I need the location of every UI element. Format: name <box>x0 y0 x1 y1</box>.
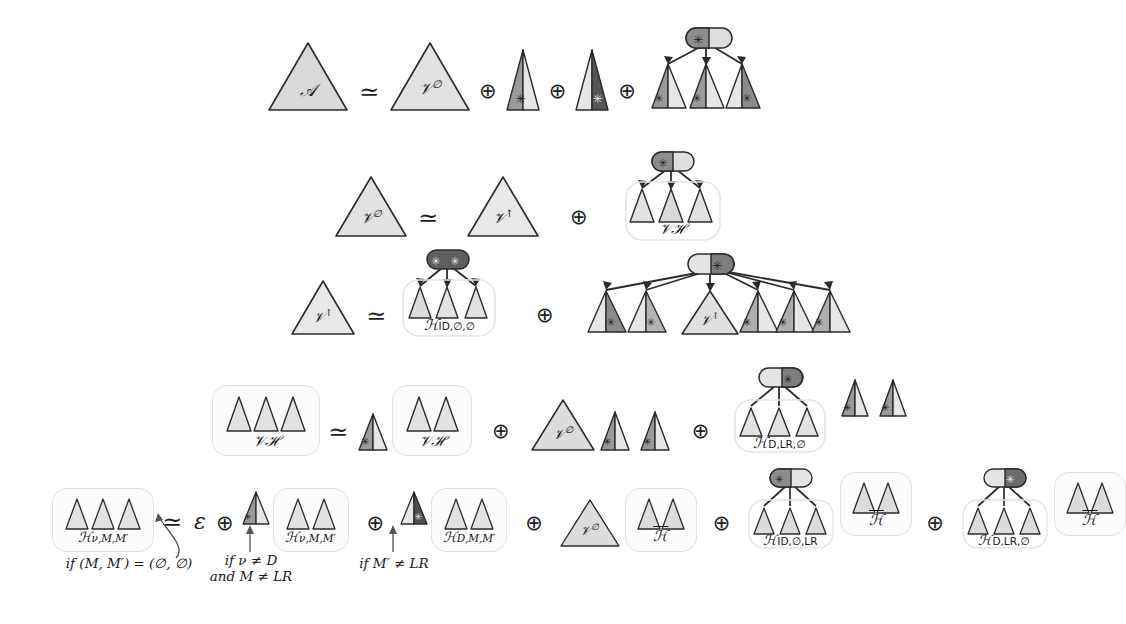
svg-text:✳: ✳ <box>775 473 784 485</box>
tree-H-ID-empty-empty: ✳ ✳ ℋID,∅,∅ <box>394 248 504 340</box>
svg-text:✳: ✳ <box>814 316 823 329</box>
star-glyph: ✳ <box>515 92 525 106</box>
operator-oplus-5a: ⊕ <box>210 513 240 552</box>
svg-text:✳: ✳ <box>843 402 851 413</box>
triangle-V-empty-4: 𝒱∅ <box>528 396 598 456</box>
svg-text:✳: ✳ <box>415 511 423 522</box>
tree-H-D-LR-empty-5: ✳ ℋD,LR,∅ <box>956 466 1052 552</box>
tree-wide-V-up-label: 𝒱↑ <box>700 310 720 329</box>
group-Hbar-5b: ℋ <box>840 472 912 536</box>
operator-oplus-1b: ⊕ <box>543 81 573 116</box>
star-glyph: ✳ <box>693 33 703 47</box>
operator-oplus-5c: ⊕ <box>519 513 549 552</box>
relation-simeq-1: ≃ <box>351 80 387 116</box>
epsilon-term: ε <box>190 509 210 552</box>
triangle-V-empty-label-5: 𝒱∅ <box>580 522 599 539</box>
group-H-nu-lhs-label: ℋν,M,M′ <box>78 529 129 545</box>
condition-3: if M′ ≠ LR <box>334 556 454 572</box>
tree-H-ID-LR-label: ℋID,∅,LR <box>763 532 817 548</box>
triangle-star-left-1: ✳ <box>503 46 543 116</box>
group-Hbar-5a: ℋ <box>625 488 697 552</box>
operator-oplus-5e: ⊕ <box>920 513 950 552</box>
group-Hbar-label-c: ℋ <box>1082 511 1097 529</box>
svg-text:✳: ✳ <box>643 436 651 447</box>
triangle-A: 𝒜 <box>265 38 351 116</box>
group-H-nu-M-Mp-rhs: ℋν,M,M′ <box>273 488 349 552</box>
tree-H-ID-empty-LR: ✳ ℋID,∅,LR <box>742 466 838 552</box>
relation-simeq-3: ≃ <box>358 304 394 340</box>
relation-simeq-5: ≃ <box>154 510 190 552</box>
triangle-V-up-label-3: 𝒱↑ <box>313 307 333 326</box>
triangle-star-4c: ✳ <box>638 406 672 456</box>
svg-text:✳: ✳ <box>658 156 668 170</box>
group-VH-lhs-label: 𝒱ℋ <box>253 432 279 450</box>
tree-H-D-LR-label: ℋD,LR,∅ <box>753 434 805 452</box>
group-Hbar-label-b: ℋ <box>869 511 884 529</box>
svg-text:✳: ✳ <box>742 316 751 329</box>
svg-text:✳: ✳ <box>783 373 792 386</box>
svg-text:✳: ✳ <box>881 402 889 413</box>
operator-oplus-4b: ⊕ <box>686 421 716 456</box>
triangle-V-up-2: 𝒱↑ <box>464 172 542 242</box>
group-H-nu-rhs-label: ℋν,M,M′ <box>285 529 336 545</box>
group-Hbar-label-a: ℋ <box>653 527 668 545</box>
triangle-V-up-label: 𝒱↑ <box>493 208 513 227</box>
triangle-V-empty-label-2: 𝒱∅ <box>361 208 382 227</box>
triangle-V-empty-5: 𝒱∅ <box>557 496 623 552</box>
relation-simeq-4: ≃ <box>320 420 356 456</box>
svg-text:✳: ✳ <box>450 255 459 268</box>
tree-H-ID-label: ℋID,∅,∅ <box>424 316 475 334</box>
group-H-D-M-Mp: ℋD,M,M′ <box>431 488 507 552</box>
relation-simeq-2: ≃ <box>410 206 446 242</box>
svg-text:✳: ✳ <box>778 316 787 329</box>
triangle-star-5b: ✳ <box>398 488 430 530</box>
group-H-D-M-Mp-label: ℋD,M,M′ <box>443 529 496 545</box>
triangle-star-4b: ✳ <box>598 406 632 456</box>
tree-H-D-LR-label-5: ℋD,LR,∅ <box>978 532 1029 548</box>
svg-text:✳: ✳ <box>431 255 440 268</box>
triangle-V-empty-label: 𝒱∅ <box>419 78 442 98</box>
triangle-V-empty: 𝒱∅ <box>387 38 473 116</box>
tree-H-D-LR-empty: ✳ ℋD,LR,∅ <box>727 364 831 456</box>
svg-text:✳: ✳ <box>646 316 655 329</box>
equation-row-2: 𝒱∅ ≃ 𝒱↑ ⊕ ✳ 𝒱ℋ <box>332 148 728 242</box>
tree-VH-label: 𝒱ℋ <box>659 220 685 238</box>
svg-text:✳: ✳ <box>654 92 663 105</box>
svg-text:✳: ✳ <box>1006 473 1015 485</box>
equation-row-3: 𝒱↑ ≃ ✳ ✳ ℋID,∅,∅ ⊕ <box>288 248 842 340</box>
triangle-A-label: 𝒜 <box>300 80 316 100</box>
operator-oplus-1a: ⊕ <box>473 81 503 116</box>
triangle-star-4d: ✳ <box>839 376 871 422</box>
triangle-V-empty-label-4: 𝒱∅ <box>553 424 573 443</box>
svg-text:✳: ✳ <box>712 259 722 273</box>
operator-oplus-4a: ⊕ <box>486 421 516 456</box>
equation-row-5: ℋν,M,M′ ≃ ε ⊕ ✳ ℋν,M,M′ ⊕ ✳ ℋD,M,M′ <box>52 466 1126 552</box>
tree-wide-V-up: ✳ ✳ ✳ ✳ ✳ ✳ 𝒱↑ <box>582 248 842 340</box>
group-H-nu-M-Mp-lhs: ℋν,M,M′ <box>52 488 154 552</box>
triangle-star-row4: ✳ <box>356 410 390 456</box>
triangle-V-up-lhs-3: 𝒱↑ <box>288 276 358 340</box>
group-VH-lhs-4: 𝒱ℋ <box>212 385 320 456</box>
svg-text:✳: ✳ <box>742 92 751 105</box>
triangle-star-4e: ✳ <box>877 376 909 422</box>
group-VH-rhs-label: 𝒱ℋ <box>419 432 445 450</box>
triangle-V-empty-lhs-2: 𝒱∅ <box>332 172 410 242</box>
operator-oplus-3: ⊕ <box>530 305 560 340</box>
svg-text:✳: ✳ <box>606 316 615 329</box>
operator-oplus-5d: ⊕ <box>707 513 737 552</box>
svg-text:✳: ✳ <box>361 436 369 447</box>
equation-row-1: 𝒜 ≃ 𝒱∅ ⊕ ✳ ⊕ ✳ ⊕ <box>265 24 770 116</box>
operator-oplus-1c: ⊕ <box>612 81 642 116</box>
svg-text:✳: ✳ <box>603 436 611 447</box>
tree-VH-row2: ✳ 𝒱ℋ <box>616 148 728 242</box>
svg-text:✳: ✳ <box>244 511 252 522</box>
equation-row-4: 𝒱ℋ ≃ ✳ 𝒱ℋ ⊕ 𝒱∅ ✳ <box>212 364 909 456</box>
group-Hbar-5c: ℋ <box>1054 472 1126 536</box>
group-VH-rhs-4: 𝒱ℋ <box>392 385 472 456</box>
operator-oplus-2: ⊕ <box>564 207 594 242</box>
star-glyph: ✳ <box>593 92 603 106</box>
condition-2: if ν ≠ D and M ≠ LR <box>186 553 316 584</box>
triangle-star-5a: ✳ <box>240 488 272 530</box>
tree-row1: ✳ ✳ ✳ ✳ <box>642 24 770 116</box>
